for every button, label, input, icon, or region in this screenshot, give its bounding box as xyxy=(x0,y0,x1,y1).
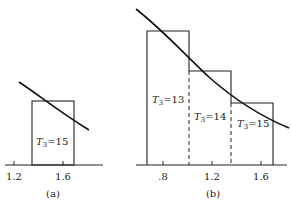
box-label-b-2: T3=14 xyxy=(194,111,226,124)
figure-canvas: T3=15 1.2 1.6 (a) T3=13 T3=14 T3=15 .8 1… xyxy=(0,0,291,203)
curve-a xyxy=(19,82,89,130)
tick-label-a-1-6: 1.6 xyxy=(55,171,71,182)
tick-label-b-1-6: 1.6 xyxy=(253,171,269,182)
box-b-t3-15 xyxy=(231,103,273,165)
caption-a: (a) xyxy=(46,188,60,199)
tick-label-b-1-2: 1.2 xyxy=(204,171,220,182)
box-label-b-3: T3=15 xyxy=(237,118,269,131)
tick-label-b-0-8: .8 xyxy=(158,171,168,182)
panel-a: T3=15 1.2 1.6 (a) xyxy=(5,82,103,199)
box-label-a-1: T3=15 xyxy=(36,136,68,149)
box-label-b-1: T3=13 xyxy=(152,94,184,107)
panel-b: T3=13 T3=14 T3=15 .8 1.2 1.6 (b) xyxy=(136,9,289,199)
caption-b: (b) xyxy=(206,188,220,199)
tick-label-a-1-2: 1.2 xyxy=(6,171,22,182)
box-b-t3-14 xyxy=(189,71,231,103)
box-a-t3-15 xyxy=(32,101,74,165)
